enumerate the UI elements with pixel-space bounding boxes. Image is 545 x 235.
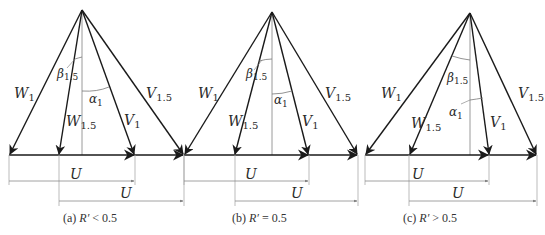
label-w1: W1 — [14, 85, 35, 103]
panel-b: W1 W1.5 V1 V1.5 β1.5 α1 U U (b) R′ = 0.5 — [184, 12, 358, 225]
label-u-lower: U — [291, 185, 304, 201]
beta-arc — [259, 59, 272, 61]
label-u-upper: U — [412, 166, 425, 182]
beta-arc — [75, 57, 82, 59]
vector-v1 — [272, 12, 308, 154]
label-w1: W1 — [381, 85, 402, 103]
label-u-upper: U — [245, 166, 258, 182]
caption-c: (c) R′ > 0.5 — [403, 211, 457, 225]
vector-v15 — [82, 10, 183, 154]
alpha-arc — [82, 87, 109, 91]
label-u-lower: U — [452, 185, 465, 201]
label-beta: β1.5 — [56, 67, 79, 82]
label-alpha: α1 — [274, 93, 288, 109]
label-w15: W1.5 — [66, 113, 96, 131]
vector-w15 — [235, 12, 272, 154]
label-beta: β1.5 — [245, 67, 268, 82]
label-v15: V1.5 — [518, 85, 544, 103]
panel-a: W1 W1.5 V1 V1.5 β1.5 α1 U U (a) R′ < 0.5 — [9, 10, 184, 225]
label-beta: β1.5 — [446, 71, 469, 86]
label-alpha: α1 — [89, 92, 103, 108]
label-w1: W1 — [198, 85, 219, 103]
caption-b: (b) R′ = 0.5 — [232, 211, 287, 225]
beta-arc — [452, 56, 470, 60]
label-v15: V1.5 — [325, 85, 351, 103]
label-v1: V1 — [490, 114, 507, 132]
vector-w1 — [185, 12, 272, 154]
label-v1: V1 — [302, 113, 319, 131]
caption-a: (a) R′ < 0.5 — [63, 211, 117, 225]
panel-c: W1 W1.5 V1 V1.5 β1.5 α1 U U (c) R′ > 0.5 — [365, 13, 544, 225]
velocity-triangles-figure: W1 W1.5 V1 V1.5 β1.5 α1 U U (a) R′ < 0.5… — [0, 0, 545, 235]
label-u-lower: U — [120, 185, 133, 201]
label-u-upper: U — [70, 166, 83, 182]
label-v15: V1.5 — [146, 85, 172, 103]
label-alpha: α1 — [449, 105, 463, 121]
vector-v1 — [82, 10, 134, 154]
label-v1: V1 — [124, 112, 141, 130]
label-w15: W1.5 — [228, 113, 258, 131]
vector-v15 — [272, 12, 357, 154]
